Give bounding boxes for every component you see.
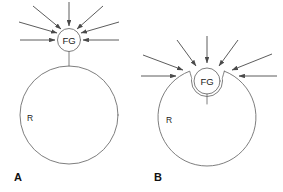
converging-arrow-a-2 (19, 22, 57, 33)
converging-arrow-b-5 (219, 40, 238, 66)
converging-arrow-a-3 (33, 6, 61, 29)
organelle-label-a: FG (62, 35, 75, 46)
diagram-svg: FGRA FGRB (0, 0, 283, 192)
converging-arrow-b-6 (232, 54, 272, 70)
converging-arrow-b-3 (177, 40, 196, 66)
converging-arrow-a-6 (81, 22, 119, 33)
cell-body-a (20, 66, 118, 164)
cell-label-a: R (27, 113, 33, 123)
panel-label-b: B (154, 171, 162, 183)
organelle-label-b: FG (200, 76, 213, 87)
panel-label-a: A (14, 171, 22, 183)
converging-arrow-b-2 (143, 55, 183, 70)
panel-a: FGRA (14, 2, 119, 183)
cell-label-b: R (166, 115, 172, 125)
panel-b: FGRB (141, 36, 277, 183)
figure-container: FGRA FGRB (0, 0, 283, 192)
converging-arrow-a-5 (77, 6, 103, 29)
